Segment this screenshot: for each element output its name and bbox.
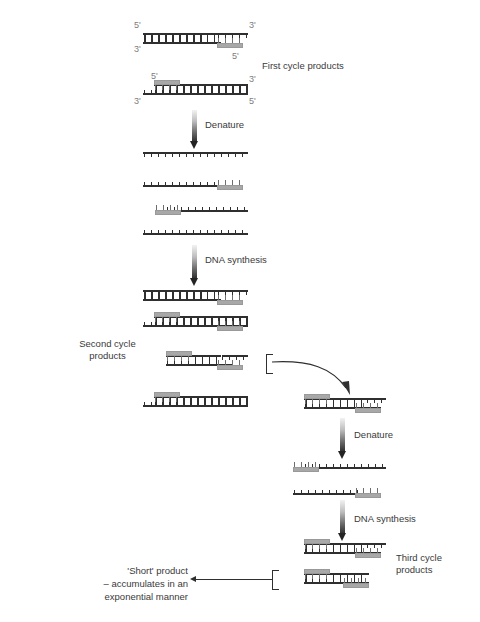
arrow-shaft — [340, 500, 345, 534]
primer-ticks — [218, 38, 242, 43]
primer-ticks-bottom — [218, 360, 242, 365]
primer-ticks — [155, 397, 179, 402]
primer-block-bottom — [343, 583, 369, 588]
primer-ticks — [155, 85, 179, 90]
dna-single-strand-2 — [143, 178, 248, 187]
strand-backbone-top-overhang — [218, 290, 248, 292]
dna-single-strand-third-1 — [293, 460, 386, 469]
dna-single-strand-4 — [143, 228, 248, 235]
overhang-ticks — [144, 402, 155, 407]
primer-block — [293, 467, 319, 472]
primer-ticks-bottom — [218, 321, 242, 326]
dna-synthesis-arrow-2 — [338, 500, 347, 542]
dna-duplex-second-cycle-3 — [155, 355, 248, 366]
dna-synthesis-label-1: DNA synthesis — [205, 254, 267, 266]
strand-ticks — [144, 182, 218, 187]
cropped-figure-caption — [0, 613, 480, 622]
arrow-head — [190, 278, 198, 286]
short-product-leader-arrowhead — [190, 576, 196, 582]
primer-ticks — [156, 205, 180, 210]
primer-ticks — [356, 488, 380, 493]
denature-arrow-2 — [338, 418, 347, 460]
strand-ticks — [294, 490, 358, 495]
denature-arrow-1 — [190, 110, 199, 150]
strand-ticks — [144, 230, 248, 235]
arrow-shaft — [192, 110, 197, 142]
base-pair-rungs — [144, 33, 218, 44]
primer-ticks-top — [167, 356, 191, 361]
primer-ticks-bottom — [356, 548, 380, 553]
primer-ticks-top — [305, 399, 329, 404]
end-label-5prime-bottom-right-2: 5' — [249, 96, 256, 106]
short-product-leader-line — [196, 579, 272, 580]
primer-block-bottom — [355, 553, 381, 558]
arrow-head — [338, 451, 346, 459]
strand-ticks — [144, 152, 248, 157]
second-cycle-products-label: Second cycle products — [55, 338, 160, 362]
end-label-3prime-top-right-2: 3' — [249, 74, 256, 84]
overhang-ticks — [144, 322, 155, 327]
dna-single-strand-1 — [143, 152, 248, 159]
dna-synthesis-label-2: DNA synthesis — [354, 513, 416, 525]
strand-backbone-top-overhang — [367, 543, 386, 545]
selection-bracket-second-cycle — [266, 354, 273, 374]
primer-block — [155, 210, 181, 215]
dna-duplex-first-cycle-2 — [143, 84, 248, 95]
dna-duplex-second-cycle-2 — [143, 316, 248, 327]
primer-ticks-bottom — [344, 578, 368, 583]
dna-duplex-second-cycle-1 — [143, 290, 248, 301]
primer-ticks — [218, 295, 242, 300]
primer-block — [355, 493, 381, 498]
primer-block-bottom — [355, 408, 381, 413]
dna-duplex-third-cycle-input — [293, 398, 386, 409]
denature-label-2: Denature — [354, 429, 393, 441]
arrow-shaft — [340, 418, 345, 452]
base-pair-rungs — [144, 290, 218, 301]
end-label-3prime-top-right: 3' — [249, 20, 256, 30]
primer-block — [217, 43, 243, 48]
dna-duplex-second-cycle-4 — [143, 396, 248, 407]
dna-duplex-third-cycle-1 — [293, 543, 386, 554]
first-cycle-products-label: First cycle products — [262, 60, 344, 72]
dna-single-strand-third-2 — [293, 486, 386, 495]
third-cycle-products-label: Third cycle products — [396, 552, 442, 576]
primer-block-bottom — [217, 326, 243, 331]
end-label-3prime-bottom-left: 3' — [134, 44, 141, 54]
strand-backbone-top-overhang — [218, 33, 248, 35]
end-label-5prime-top-left: 5' — [134, 20, 141, 30]
arrow-head — [190, 141, 198, 149]
primer-ticks — [218, 180, 242, 185]
primer-block-bottom — [217, 365, 243, 370]
dna-duplex-first-cycle-1 — [143, 33, 248, 44]
primer-ticks — [294, 462, 318, 467]
end-label-5prime-bottom-right: 5' — [232, 51, 239, 61]
short-product-annotation: 'Short' product – accumulates in an expo… — [60, 564, 188, 603]
arrow-head — [338, 533, 346, 541]
overhang-ticks — [144, 90, 155, 95]
dna-single-strand-3 — [155, 203, 248, 212]
denature-label-1: Denature — [205, 119, 244, 131]
dna-synthesis-arrow-1 — [190, 245, 199, 287]
dna-duplex-short-product — [293, 573, 373, 584]
primer-ticks-bottom — [356, 403, 380, 408]
short-product-bracket — [272, 570, 279, 590]
strand-backbone-top-overhang — [222, 355, 248, 357]
strand-backbone-top-overhang — [367, 398, 386, 400]
arrow-shaft — [192, 245, 197, 279]
primer-ticks-top — [155, 317, 179, 322]
end-label-3prime-bottom-left-2: 3' — [134, 96, 141, 106]
primer-ticks-top — [305, 574, 329, 579]
primer-ticks-top — [305, 544, 329, 549]
primer-block — [217, 300, 243, 305]
primer-block — [217, 185, 243, 190]
